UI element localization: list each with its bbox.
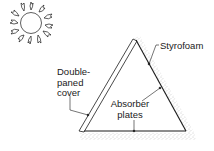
absorber-label-line1: Absorber xyxy=(107,99,153,110)
double-paned-cover-label: Double- paned cover xyxy=(57,67,90,99)
solar-collector-diagram xyxy=(0,0,214,151)
cover-label-line1: Double- xyxy=(57,67,90,78)
absorber-plates-label: Absorber plates xyxy=(107,99,153,120)
absorber-label-line2: plates xyxy=(107,110,153,121)
styrofoam-label: Styrofoam xyxy=(160,41,203,52)
styrofoam-insulation xyxy=(80,36,196,140)
cover-label-line3: cover xyxy=(57,88,90,99)
sun-icon xyxy=(10,2,53,44)
